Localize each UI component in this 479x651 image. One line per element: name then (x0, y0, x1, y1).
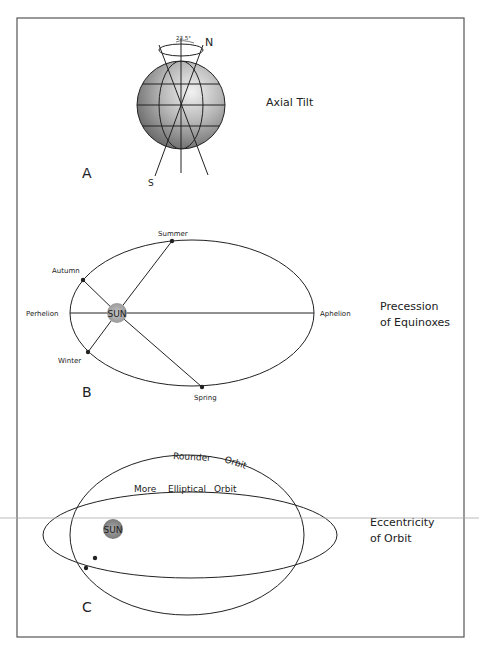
eccentricity-title-line2: of Orbit (370, 532, 412, 545)
panel-b-precession: SUN Summer Autumn Winter Spring Perhelio… (26, 230, 450, 402)
panel-letter-a: A (82, 165, 92, 181)
panel-a-axial-tilt: 23.5° N S A Axial Tilt (82, 35, 314, 188)
elliptical-label-1: More (134, 484, 157, 494)
autumn-point (81, 278, 85, 282)
summer-point (170, 239, 174, 243)
elliptical-orbit-point (93, 556, 97, 560)
panel-letter-b: B (82, 384, 92, 400)
panel-c-eccentricity: SUN Rounder Orbit More Elliptical Orbit … (43, 451, 435, 615)
summer-label: Summer (158, 230, 188, 238)
winter-point (86, 350, 90, 354)
panel-letter-c: C (82, 599, 92, 615)
milankovitch-diagram: 23.5° N S A Axial Tilt SUN Summer Autumn… (0, 0, 479, 651)
elliptical-label-3: Orbit (214, 484, 237, 494)
angle-label: 23.5° (176, 35, 191, 41)
winter-label: Winter (58, 357, 81, 365)
sun-label-b: SUN (107, 309, 126, 319)
axial-tilt-title: Axial Tilt (266, 96, 314, 109)
perihelion-label: Perhelion (26, 310, 58, 318)
elliptical-label-2: Elliptical (168, 484, 206, 494)
precession-title-line1: Precession (380, 300, 439, 313)
aphelion-label: Aphelion (320, 310, 351, 318)
autumn-label: Autumn (52, 267, 80, 275)
rounder-orbit-point (84, 566, 88, 570)
spring-point (200, 385, 204, 389)
precession-title-line2: of Equinoxes (380, 316, 450, 329)
rounder-label-2: Orbit (223, 454, 248, 471)
more-elliptical-orbit (43, 492, 337, 578)
north-label: N (205, 36, 213, 49)
rounder-label-1: Rounder (173, 451, 211, 463)
spring-label: Spring (194, 394, 217, 402)
sun-label-c: SUN (103, 525, 122, 535)
south-label: S (148, 178, 154, 188)
angle-arc (176, 41, 194, 43)
